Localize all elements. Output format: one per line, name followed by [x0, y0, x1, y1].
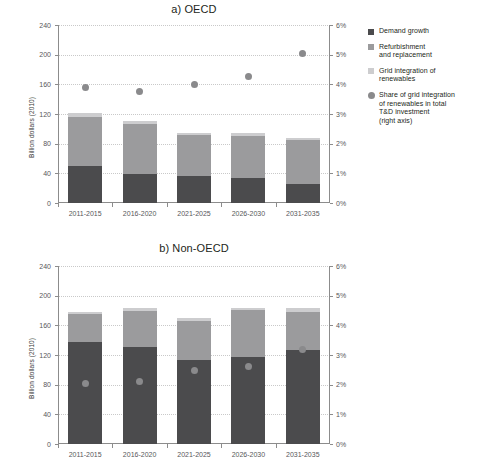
y-tick-left — [55, 144, 58, 145]
y-tick-label-right: 5% — [336, 51, 362, 58]
bar-2026-2030[interactable] — [231, 266, 265, 444]
bar-segment-demand-growth[interactable] — [123, 174, 157, 203]
bar-segment-grid-integration[interactable] — [286, 308, 320, 312]
bar-segment-refurbishment[interactable] — [68, 314, 102, 342]
y-tick-right — [330, 414, 333, 415]
chart-legend: Demand growthRefurbishment and replaceme… — [368, 27, 486, 132]
x-tick-label: 2026-2030 — [221, 451, 275, 458]
bar-segment-refurbishment[interactable] — [177, 321, 211, 360]
bar-2026-2030[interactable] — [231, 25, 265, 203]
y-tick-right — [330, 25, 333, 26]
bar-segment-demand-growth[interactable] — [231, 357, 265, 444]
legend-item-3[interactable]: Share of grid integration of renewables … — [368, 91, 486, 125]
bar-segment-grid-integration[interactable] — [123, 121, 157, 123]
y-tick-right — [330, 173, 333, 174]
bar-2016-2020[interactable] — [123, 25, 157, 203]
y-axis-label-oecd: Billion dollars (2010) — [28, 97, 35, 158]
bar-segment-refurbishment[interactable] — [177, 135, 211, 176]
bar-2031-2035[interactable] — [286, 266, 320, 444]
y-axis-left-line — [58, 266, 59, 444]
x-tick — [276, 444, 277, 448]
bar-segment-refurbishment[interactable] — [123, 311, 157, 347]
y-axis-left-line — [58, 25, 59, 203]
x-tick — [167, 203, 168, 207]
y-tick-label-right: 0% — [336, 200, 362, 207]
legend-square-swatch-icon — [368, 44, 374, 50]
bar-segment-grid-integration[interactable] — [286, 138, 320, 140]
y-tick-right — [330, 203, 333, 204]
bar-segment-refurbishment[interactable] — [68, 117, 102, 166]
chart-panel-non-oecd: b) Non-OECD Billion dollars (2010) 00%40… — [0, 232, 487, 456]
legend-item-0[interactable]: Demand growth — [368, 27, 486, 36]
bar-segment-grid-integration[interactable] — [68, 113, 102, 117]
panel-title-oecd: a) OECD — [58, 3, 330, 15]
scatter-point-share[interactable] — [191, 367, 198, 374]
x-tick-label: 2016-2020 — [112, 210, 166, 217]
y-tick-left — [55, 414, 58, 415]
legend-item-label: Share of grid integration of renewables … — [379, 91, 486, 125]
x-tick — [58, 203, 59, 207]
bar-2011-2015[interactable] — [68, 266, 102, 444]
y-tick-label-right: 5% — [336, 292, 362, 299]
x-tick-label: 2016-2020 — [112, 451, 166, 458]
x-tick-label: 2011-2015 — [58, 451, 112, 458]
bar-segment-refurbishment[interactable] — [123, 124, 157, 174]
x-tick-label: 2026-2030 — [221, 210, 275, 217]
bar-segment-refurbishment[interactable] — [231, 136, 265, 178]
bar-segment-demand-growth[interactable] — [177, 176, 211, 203]
y-tick-label-right: 2% — [336, 381, 362, 388]
bar-2021-2025[interactable] — [177, 25, 211, 203]
legend-square-swatch-icon — [368, 29, 374, 35]
x-tick-label: 2021-2025 — [167, 210, 221, 217]
bar-segment-grid-integration[interactable] — [177, 133, 211, 135]
bar-segment-refurbishment[interactable] — [286, 312, 320, 350]
y-tick-label-left: 120 — [25, 111, 51, 118]
y-tick-left — [55, 266, 58, 267]
x-tick-label: 2021-2025 — [167, 451, 221, 458]
legend-item-2[interactable]: Grid integration of renewables — [368, 67, 486, 84]
bar-2016-2020[interactable] — [123, 266, 157, 444]
x-tick — [58, 444, 59, 448]
x-tick — [112, 203, 113, 207]
bar-segment-grid-integration[interactable] — [68, 312, 102, 314]
y-tick-label-left: 80 — [25, 381, 51, 388]
legend-item-label: Demand growth — [379, 27, 486, 36]
scatter-point-share[interactable] — [299, 50, 306, 57]
y-tick-label-left: 240 — [25, 263, 51, 270]
y-tick-label-left: 160 — [25, 81, 51, 88]
x-tick — [112, 444, 113, 448]
y-tick-label-left: 120 — [25, 352, 51, 359]
y-tick-label-right: 2% — [336, 140, 362, 147]
y-tick-label-right: 1% — [336, 411, 362, 418]
scatter-point-share[interactable] — [299, 346, 306, 353]
bar-segment-demand-growth[interactable] — [123, 347, 157, 444]
bar-segment-demand-growth[interactable] — [286, 350, 320, 444]
bar-segment-refurbishment[interactable] — [286, 140, 320, 185]
bar-segment-grid-integration[interactable] — [231, 308, 265, 310]
bar-segment-grid-integration[interactable] — [231, 133, 265, 136]
bar-segment-refurbishment[interactable] — [231, 310, 265, 357]
y-tick-left — [55, 385, 58, 386]
bar-segment-demand-growth[interactable] — [68, 166, 102, 203]
bar-segment-grid-integration[interactable] — [177, 318, 211, 321]
y-tick-label-right: 3% — [336, 352, 362, 359]
bar-segment-grid-integration[interactable] — [123, 308, 157, 311]
scatter-point-share[interactable] — [82, 380, 89, 387]
y-tick-label-right: 4% — [336, 322, 362, 329]
plot-area-non-oecd: 00%401%802%1203%1604%2005%2406%2011-2015… — [58, 266, 330, 444]
bar-2011-2015[interactable] — [68, 25, 102, 203]
bar-segment-demand-growth[interactable] — [68, 342, 102, 444]
bar-segment-demand-growth[interactable] — [286, 184, 320, 203]
bar-2021-2025[interactable] — [177, 266, 211, 444]
scatter-point-share[interactable] — [82, 84, 89, 91]
bar-segment-demand-growth[interactable] — [231, 178, 265, 203]
legend-item-1[interactable]: Refurbishment and replacement — [368, 43, 486, 60]
legend-item-label: Refurbishment and replacement — [379, 43, 486, 60]
x-tick-label: 2031-2035 — [276, 210, 330, 217]
y-tick-right — [330, 55, 333, 56]
y-tick-label-left: 200 — [25, 292, 51, 299]
scatter-point-share[interactable] — [191, 81, 198, 88]
y-tick-left — [55, 355, 58, 356]
y-tick-label-right: 1% — [336, 170, 362, 177]
